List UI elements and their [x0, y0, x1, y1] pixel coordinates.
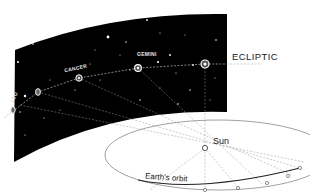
sun-label: Sun	[213, 136, 229, 146]
earth-position-markers	[203, 166, 301, 191]
earth-orbit	[105, 120, 310, 190]
star-field-panel	[14, 14, 227, 162]
sun-icon	[202, 145, 207, 150]
ecliptic-label: ECLIPTIC	[232, 51, 278, 62]
constellation-label-gemini: GEMINI	[137, 51, 157, 57]
diagram-canvas	[0, 0, 310, 195]
